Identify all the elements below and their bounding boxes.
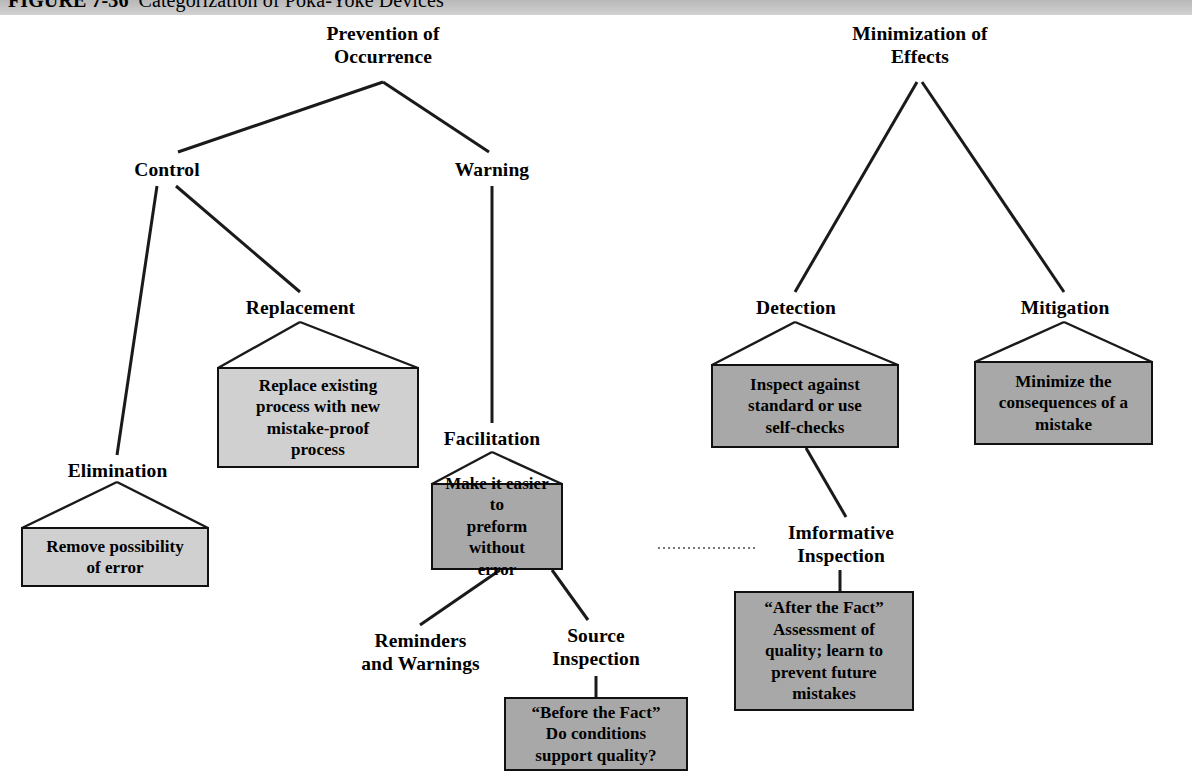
box-after-the-fact: “After the Fact” Assessment of quality; … (734, 591, 914, 711)
edge-mitigation-box-right (1064, 322, 1152, 362)
edge-detection-box-right (795, 322, 898, 365)
node-detection: Detection (722, 296, 870, 319)
edge-facilitation-source (552, 570, 588, 620)
node-mitigation: Mitigation (990, 296, 1140, 319)
node-minimization-of-effects: Minimization of Effects (815, 22, 1025, 68)
node-facilitation: Facilitation (417, 427, 567, 450)
edge-detection-informative (806, 448, 846, 517)
node-replacement: Replacement (218, 296, 383, 319)
edge-prevention-warning (383, 82, 489, 152)
node-elimination: Elimination (40, 459, 195, 482)
node-control: Control (102, 158, 232, 181)
box-inspect-against: Inspect against standard or use self-che… (711, 364, 899, 448)
node-prevention-of-occurrence: Prevention of Occurrence (283, 22, 483, 68)
box-remove-possibility: Remove possibility of error (21, 527, 209, 587)
figure-root: FIGURE 7-36Categorization of Poka-Yoke D… (0, 0, 1192, 771)
edge-elimination-box-right (117, 482, 208, 528)
box-before-the-fact: “Before the Fact” Do conditions support … (504, 697, 688, 771)
box-replace-process: Replace existing process with new mistak… (217, 367, 419, 468)
edge-control-replacement (176, 186, 300, 292)
edge-replacement-box-left (218, 322, 300, 368)
node-warning: Warning (427, 158, 557, 181)
edge-control-elimination (117, 186, 157, 455)
node-imformative-inspection: Imformative Inspection (762, 521, 920, 567)
node-source-inspection: Source Inspection (520, 624, 672, 670)
node-reminders-and-warnings: Reminders and Warnings (308, 629, 533, 675)
edge-replacement-box-right (300, 322, 418, 368)
edge-mitigation-box-left (975, 322, 1064, 362)
edge-prevention-control (178, 82, 383, 152)
box-make-easier: Make it easier to preform without error (431, 483, 563, 570)
edge-detection-box-left (712, 322, 795, 365)
edge-minimization-detection (795, 82, 917, 292)
box-minimize-consequences: Minimize the consequences of a mistake (974, 361, 1153, 445)
edge-minimization-mitigation (922, 82, 1064, 292)
edge-elimination-box-left (22, 482, 117, 528)
